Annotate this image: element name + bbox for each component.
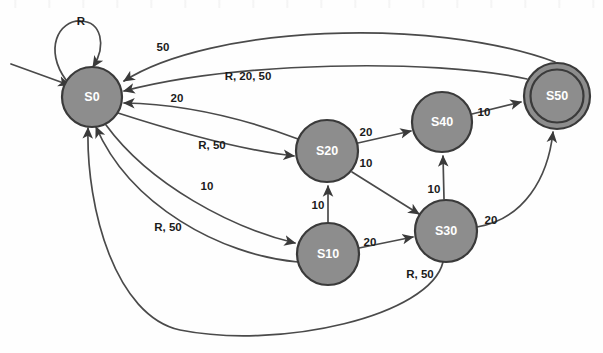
edge-label-S50-S0-R2050: R, 20, 50 [225, 70, 272, 82]
edge-S30-to-S0-R50: R, 50 [88, 128, 443, 336]
state-node-S0-label: S0 [84, 90, 99, 104]
state-node-S50-label: S50 [546, 89, 568, 103]
edge-label-S30-S50-20: 20 [485, 214, 498, 226]
edge-start-to-S0 [11, 64, 69, 85]
edge-S30-to-S50-20: 20 [477, 132, 553, 227]
edge-label-S10-S30-20: 20 [364, 236, 377, 248]
edge-label-S10-S0-R50: R, 50 [154, 221, 182, 233]
edge-S0-to-S20-R50: R, 50 [118, 113, 294, 156]
state-node-S40-label: S40 [431, 115, 453, 129]
edge-S50-to-S0-R2050: R, 20, 50 [124, 66, 527, 91]
edge-label-S20-S0-20: 20 [171, 92, 184, 104]
edge-S10-to-S0-R50: R, 50 [96, 127, 298, 262]
edge-label-S30-S40-10: 10 [428, 183, 441, 195]
state-node-S0[interactable]: S0 [62, 67, 122, 127]
edge-S50-to-S0-50: 50 [124, 33, 555, 81]
state-node-S50[interactable]: S50 [524, 63, 590, 129]
state-node-S30-label: S30 [435, 224, 457, 238]
state-node-S20-label: S20 [316, 144, 338, 158]
state-machine-svg: R 50 R, 20, 50 20 R, 50 10 [0, 0, 603, 353]
edge-label-S50-S0-50: 50 [157, 41, 170, 53]
state-diagram-canvas: R 50 R, 20, 50 20 R, 50 10 [0, 0, 603, 353]
edge-S20-to-S40-20: 20 [358, 126, 411, 143]
state-node-S10-label: S10 [317, 247, 339, 261]
state-node-S40[interactable]: S40 [412, 92, 472, 152]
edge-S20-to-S30-10: 10 [352, 157, 419, 214]
edge-label-S0-S10-10: 10 [201, 180, 214, 192]
state-node-S30[interactable]: S30 [415, 200, 477, 262]
edge-label-S30-S0-R50: R, 50 [406, 268, 434, 280]
edge-label-S20-S40-20: 20 [360, 126, 373, 138]
edge-label-S20-S30-10: 10 [360, 157, 373, 169]
edge-label-S10-S20-10: 10 [312, 199, 325, 211]
edge-label-S0-S20-R50: R, 50 [198, 139, 226, 151]
state-node-S10[interactable]: S10 [297, 223, 359, 285]
state-node-S20[interactable]: S20 [296, 120, 358, 182]
edge-S10-to-S30-20: 20 [359, 236, 413, 248]
edge-S40-to-S50-10: 10 [472, 102, 521, 118]
edge-label-S40-S50-10: 10 [478, 106, 491, 118]
edge-S20-to-S0-20: 20 [124, 92, 298, 139]
edge-label-S0-self: R [77, 15, 86, 27]
edge-S10-to-S20-10: 10 [312, 186, 328, 222]
edge-S30-to-S40-10: 10 [428, 156, 444, 199]
